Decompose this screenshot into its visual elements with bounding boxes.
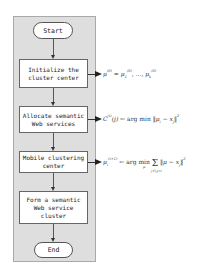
step3-label: Mobile clustering center [23,154,84,170]
formula-subscript: μ [143,165,145,169]
start-label: Start [43,27,63,35]
start-node: Start [33,22,73,39]
flowchart-panel [13,16,96,262]
step-initialize-cluster-center: Initialize the cluster center [19,59,88,88]
step2-label: Allocate semantic Web services [23,112,84,128]
formula-assign: C(t)(j) ← arg min ‖μi − xj‖2 [103,114,179,124]
step-mobile-clustering-center: Mobile clustering center [19,151,88,173]
step1-label: Initialize the cluster center [28,66,79,82]
arrowhead-icon [95,116,102,122]
formula-init-centers: μ(0) = μ1(0), ..., μk(0) [103,69,156,79]
formula-sum-subscript: j:C(j)=i [151,169,162,173]
end-label: End [48,246,60,254]
arrowhead-icon [95,159,102,165]
step-form-web-service-cluster: Form a semantic Web service cluster [19,191,88,224]
step4-label: Form a semantic Web service cluster [26,196,80,220]
step-allocate-web-services: Allocate semantic Web services [19,106,88,133]
arrowhead-icon [95,71,102,77]
end-node: End [34,242,73,258]
